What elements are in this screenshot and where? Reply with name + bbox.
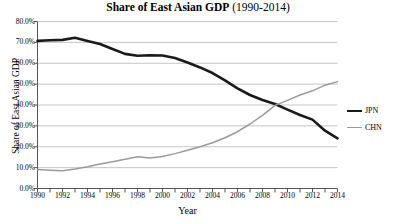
legend-item-chn[interactable]: CHN <box>347 121 396 138</box>
chart-container: Share of East Asian GDP (1990-2014) Shar… <box>0 0 396 224</box>
legend-label-chn: CHN <box>365 121 382 135</box>
footnote-text <box>36 218 376 224</box>
legend-label-jpn: JPN <box>365 104 378 118</box>
chart-legend: JPNCHN <box>347 104 396 138</box>
legend-swatch-chn <box>347 127 362 128</box>
legend-item-jpn[interactable]: JPN <box>347 104 396 121</box>
legend-swatch-jpn <box>347 110 362 112</box>
x-axis-title: Year <box>38 205 337 216</box>
x-axis-tick-labels: 1990199219941996199820002002200420062008… <box>0 0 396 224</box>
x-axis-tick-label: 2014 <box>323 192 353 200</box>
